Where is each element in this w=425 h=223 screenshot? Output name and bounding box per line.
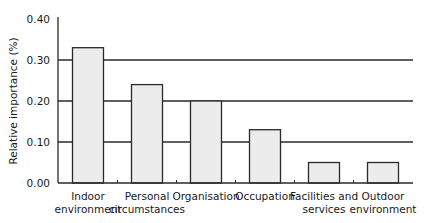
- bar-chart: 0.000.100.200.300.40 IndoorenvironmentPe…: [0, 0, 425, 223]
- x-category-label: environment: [350, 203, 417, 215]
- bars: [73, 48, 399, 183]
- bar: [309, 163, 340, 184]
- bar: [191, 101, 222, 183]
- gridlines: [58, 60, 413, 142]
- x-category-label: Occupation: [235, 190, 295, 202]
- y-tick-label: 0.40: [27, 13, 50, 25]
- y-axis-label: Relative importance (%): [7, 37, 19, 164]
- y-tick-label: 0.00: [27, 177, 50, 189]
- x-category-label: circumstances: [109, 203, 185, 215]
- bar: [132, 85, 163, 183]
- x-category-label: Indoor: [71, 190, 105, 202]
- x-category-labels: IndoorenvironmentPersonalcircumstancesOr…: [55, 190, 417, 215]
- bar: [250, 130, 281, 183]
- x-category-label: Personal: [125, 190, 170, 202]
- x-category-label: services: [302, 203, 345, 215]
- x-category-label: Facilities and: [290, 190, 358, 202]
- y-tick-labels: 0.000.100.200.300.40: [27, 13, 50, 189]
- y-tick-label: 0.10: [27, 136, 50, 148]
- x-category-label: Outdoor: [362, 190, 406, 202]
- y-tick-label: 0.30: [27, 54, 50, 66]
- bar: [73, 48, 104, 183]
- x-category-label: Organisation: [172, 190, 239, 202]
- y-tick-label: 0.20: [27, 95, 50, 107]
- axes: [58, 17, 413, 183]
- bar: [368, 163, 399, 184]
